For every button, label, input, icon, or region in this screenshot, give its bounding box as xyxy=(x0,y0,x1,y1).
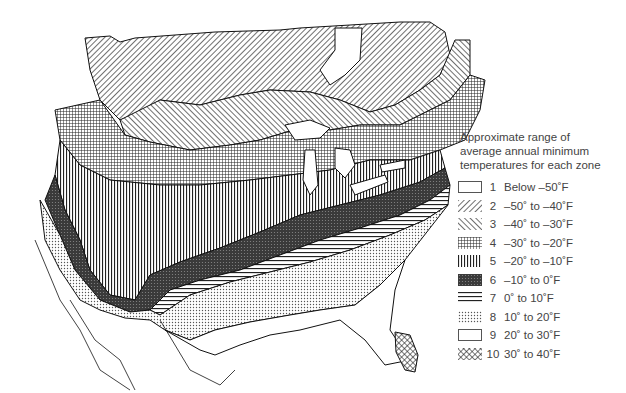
legend-row-zone-10: 10 30˚ to 40˚F xyxy=(458,345,626,364)
legend-row-zone-8: 8 10˚ to 20˚F xyxy=(458,308,626,327)
legend-row-zone-9: 9 20˚ to 30˚F xyxy=(458,326,626,345)
swatch-vertical-icon xyxy=(458,255,482,267)
legend-row-zone-4: 4 –30˚ to –20˚F xyxy=(458,234,626,253)
legend-row-zone-6: 6 –10˚ to 0˚F xyxy=(458,271,626,290)
legend-row-zone-3: 3 –40˚ to –30˚F xyxy=(458,215,626,234)
swatch-cross-hatch-icon xyxy=(458,348,482,360)
swatch-dots-icon xyxy=(458,311,482,323)
zone-10-region xyxy=(395,332,418,372)
legend-title: Approximate range of average annual mini… xyxy=(460,130,626,172)
swatch-blank-icon xyxy=(458,329,482,341)
legend-row-zone-2: 2 –50˚ to –40˚F xyxy=(458,197,626,216)
zone-legend: Approximate range of average annual mini… xyxy=(458,130,626,363)
swatch-diag-left-icon xyxy=(458,218,482,230)
legend-row-zone-7: 7 0˚ to 10˚F xyxy=(458,289,626,308)
swatch-diag-right-icon xyxy=(458,200,482,212)
legend-row-zone-5: 5 –20˚ to –10˚F xyxy=(458,252,626,271)
swatch-dense-dark-icon xyxy=(458,274,482,286)
swatch-grid-icon xyxy=(458,237,482,249)
legend-row-zone-1: 1 Below –50˚F xyxy=(458,178,626,197)
swatch-horizontal-icon xyxy=(458,292,482,304)
swatch-blank-icon xyxy=(458,181,482,193)
